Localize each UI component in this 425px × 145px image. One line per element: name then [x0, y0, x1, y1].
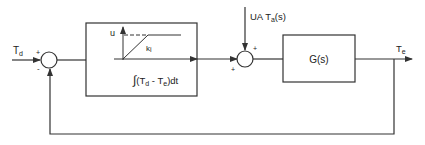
plus-sign-top: +: [253, 45, 257, 52]
integral-expression: ∫(Td - Te)dt: [132, 73, 179, 87]
summing-circle-icon: [41, 52, 57, 68]
summing-junction-1: + -: [36, 49, 57, 73]
disturbance-input: UA Ta(s): [245, 7, 286, 50]
slope-label: ki: [146, 44, 152, 53]
plant-label: G(s): [309, 54, 328, 65]
plus-sign: +: [36, 49, 40, 56]
minus-sign: -: [37, 64, 40, 73]
output-signal: Te: [355, 43, 412, 59]
output-label: Te: [396, 43, 406, 55]
plus-sign-left: +: [231, 66, 235, 73]
controller-block: u ki ∫(Td - Te)dt: [86, 23, 197, 96]
plant-block: G(s): [283, 35, 355, 82]
input-label: Td: [13, 45, 23, 57]
y-axis-label: u: [110, 28, 115, 38]
disturbance-label: UA Ta(s): [250, 11, 286, 23]
summing-circle-icon: [237, 51, 253, 67]
control-block-diagram: Td + - u ki ∫(Td - Te)dt UA Ta(s) + + G(…: [0, 0, 425, 145]
